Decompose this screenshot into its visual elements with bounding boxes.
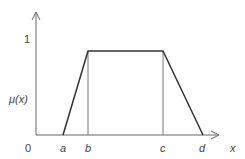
y-axis-label: μ(x)	[9, 94, 28, 105]
membership-diagram	[0, 0, 245, 159]
point-a-label: a	[60, 143, 66, 154]
point-d-label: d	[199, 143, 205, 154]
x-axis-label: x	[230, 143, 236, 154]
point-b-label: b	[85, 143, 91, 154]
y-tick-one: 1	[24, 34, 30, 45]
point-c-label: c	[160, 143, 166, 154]
origin-label: 0	[25, 143, 31, 154]
trapezoid-curve	[63, 51, 203, 135]
